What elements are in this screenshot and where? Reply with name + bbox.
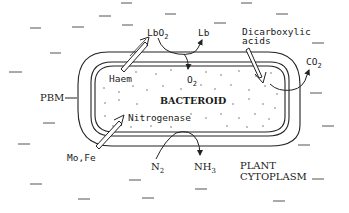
haem-to-lbo2-arrow	[121, 37, 149, 72]
label-nh3: NH3	[194, 161, 216, 175]
label-plant-line2: CYTOPLASM	[240, 171, 307, 182]
label-pbm: PBM	[40, 92, 64, 103]
label-haem: Haem	[109, 73, 132, 84]
nodule-diagram: LbO2 Lb Dicarboxylic acids CO2 Haem O2 B…	[0, 0, 349, 213]
label-nitrogenase: Nitrogenase	[128, 112, 191, 123]
label-plant-line1: PLANT	[240, 160, 276, 171]
label-dicarboxylic-line2: acids	[242, 35, 271, 46]
label-bacteroid: BACTEROID	[160, 95, 226, 106]
label-lb: Lb	[198, 27, 210, 38]
label-o2: O2	[187, 74, 197, 88]
label-co2: CO2	[306, 56, 322, 70]
label-mofe: Mo,Fe	[67, 152, 96, 163]
label-lbo2: LbO2	[147, 27, 168, 41]
diagram-canvas: LbO2 Lb Dicarboxylic acids CO2 Haem O2 B…	[0, 0, 349, 213]
label-n2: N2	[151, 161, 164, 175]
